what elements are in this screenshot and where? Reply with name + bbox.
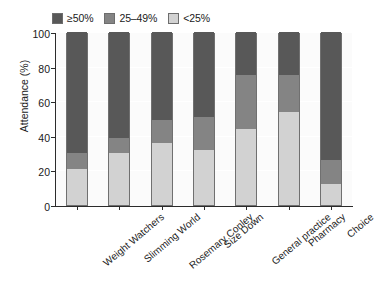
y-tick-mark	[51, 33, 55, 34]
bar-stack[interactable]	[278, 33, 300, 206]
x-tick-mark	[119, 206, 120, 210]
legend-swatch-icon	[52, 13, 63, 24]
y-tick-label: 80	[4, 64, 50, 75]
legend-swatch-icon	[168, 13, 179, 24]
chart-legend: ≥50%25–49%<25%	[52, 11, 210, 25]
bar-segment[interactable]	[67, 153, 87, 169]
bar-segment[interactable]	[194, 117, 214, 150]
bar-group[interactable]	[193, 33, 215, 206]
bar-segment[interactable]	[321, 184, 341, 205]
bar-stack[interactable]	[320, 33, 342, 206]
bar-segment[interactable]	[109, 153, 129, 205]
bar-segment[interactable]	[279, 112, 299, 205]
bar-stack[interactable]	[235, 33, 257, 206]
bar-group[interactable]	[151, 33, 173, 206]
x-tick-mark	[204, 206, 205, 210]
plot-area	[56, 33, 352, 206]
bar-stack[interactable]	[108, 33, 130, 206]
legend-label: ≥50%	[67, 13, 93, 24]
bar-segment[interactable]	[152, 32, 172, 120]
bar-stack[interactable]	[66, 33, 88, 206]
bar-segment[interactable]	[236, 129, 256, 205]
x-tick-mark	[162, 206, 163, 210]
bar-segment[interactable]	[67, 32, 87, 153]
y-tick-mark	[51, 137, 55, 138]
y-tick-label: 100	[4, 29, 50, 40]
bar-segment[interactable]	[194, 32, 214, 117]
x-tick-mark	[77, 206, 78, 210]
y-tick-mark	[51, 171, 55, 172]
bar-segment[interactable]	[321, 160, 341, 184]
legend-entry: <25%	[168, 13, 210, 24]
bar-stack[interactable]	[193, 33, 215, 206]
legend-label: <25%	[183, 13, 210, 24]
y-tick-label: 20	[4, 167, 50, 178]
bar-group[interactable]	[278, 33, 300, 206]
bar-segment[interactable]	[109, 32, 129, 138]
bar-segment[interactable]	[321, 32, 341, 160]
bar-group[interactable]	[235, 33, 257, 206]
bar-segment[interactable]	[67, 169, 87, 205]
x-tick-label: Choice	[345, 212, 375, 240]
bar-segment[interactable]	[236, 32, 256, 75]
bar-segment[interactable]	[236, 75, 256, 129]
y-tick-label: 60	[4, 98, 50, 109]
y-axis-tick-labels: 020406080100	[0, 0, 50, 290]
x-tick-mark	[289, 206, 290, 210]
bar-segment[interactable]	[152, 120, 172, 142]
bar-segment[interactable]	[109, 138, 129, 154]
bar-group[interactable]	[320, 33, 342, 206]
bar-group[interactable]	[66, 33, 88, 206]
bar-segment[interactable]	[279, 75, 299, 111]
legend-entry: 25–49%	[104, 13, 157, 24]
bar-segment[interactable]	[152, 143, 172, 205]
y-tick-label: 0	[4, 202, 50, 213]
bar-stack[interactable]	[151, 33, 173, 206]
x-tick-label: Weight Watchers	[102, 212, 166, 268]
bar-group[interactable]	[108, 33, 130, 206]
y-tick-mark	[51, 68, 55, 69]
bar-segment[interactable]	[279, 32, 299, 75]
y-tick-mark	[51, 206, 55, 207]
bar-segment[interactable]	[194, 150, 214, 205]
legend-swatch-icon	[104, 13, 115, 24]
y-tick-mark	[51, 102, 55, 103]
legend-entry: ≥50%	[52, 13, 93, 24]
y-tick-label: 40	[4, 133, 50, 144]
legend-label: 25–49%	[119, 13, 157, 24]
x-tick-mark	[246, 206, 247, 210]
x-tick-mark	[331, 206, 332, 210]
